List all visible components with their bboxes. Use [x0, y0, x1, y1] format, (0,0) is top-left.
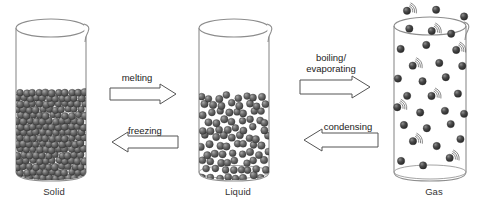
- transition-label-condensing: condensing: [308, 121, 388, 132]
- state-label-gas: Gas: [392, 186, 476, 197]
- particle: [459, 62, 466, 69]
- particle: [419, 162, 426, 169]
- particle: [409, 62, 416, 69]
- particle: [428, 92, 435, 99]
- particle: [29, 89, 36, 96]
- particle: [261, 127, 268, 134]
- particle: [446, 154, 453, 161]
- particle: [207, 128, 214, 135]
- particle: [447, 120, 454, 127]
- particle: [397, 157, 404, 164]
- particle: [51, 163, 59, 171]
- particle: [244, 160, 251, 167]
- particle: [236, 102, 243, 109]
- particle: [400, 121, 407, 128]
- transition-label-melting: melting: [104, 72, 170, 83]
- particle: [215, 126, 222, 133]
- particle: [428, 27, 435, 34]
- particle: [258, 93, 265, 100]
- particle: [409, 137, 416, 144]
- arrow-condensing: [304, 129, 378, 151]
- particle: [239, 110, 246, 117]
- particle: [61, 89, 68, 96]
- particle: [213, 133, 220, 140]
- particle: [265, 148, 272, 155]
- particle: [219, 151, 226, 158]
- particle: [238, 166, 245, 173]
- diagram-canvas: [0, 0, 486, 206]
- particle: [258, 142, 266, 150]
- particle: [228, 134, 235, 141]
- particle: [197, 143, 204, 150]
- particle: [423, 41, 430, 48]
- particle: [14, 152, 21, 159]
- particle: [441, 107, 448, 114]
- particle: [42, 112, 49, 119]
- particle: [419, 78, 426, 85]
- particle: [261, 119, 268, 126]
- particle: [252, 136, 259, 143]
- particle: [229, 150, 236, 157]
- particle: [240, 140, 247, 147]
- particle: [230, 166, 237, 173]
- particle: [222, 167, 229, 174]
- particle: [203, 165, 210, 172]
- particle: [204, 152, 211, 159]
- particle: [246, 148, 253, 155]
- particle: [457, 135, 464, 142]
- particle: [209, 101, 217, 109]
- particle: [208, 109, 215, 116]
- particle: [394, 75, 401, 82]
- particle: [205, 95, 212, 102]
- phase-change-diagram: melting freezing boiling/ evaporating co…: [0, 0, 486, 206]
- transition-label-freezing: freezing: [112, 125, 178, 136]
- particle: [81, 88, 89, 96]
- particle: [13, 117, 21, 125]
- particle: [433, 142, 440, 149]
- beaker-rim-liquid: [199, 19, 269, 37]
- particle: [432, 6, 439, 13]
- particle: [61, 113, 68, 120]
- particle: [249, 123, 256, 130]
- particle: [218, 102, 225, 109]
- particle: [48, 90, 56, 98]
- particle: [403, 92, 410, 99]
- particle: [397, 45, 404, 52]
- particle: [225, 174, 232, 181]
- particle: [224, 126, 231, 133]
- particle: [262, 101, 269, 108]
- particle: [26, 152, 33, 159]
- particle: [247, 116, 254, 123]
- state-label-solid: Solid: [12, 186, 96, 197]
- particle: [224, 159, 231, 166]
- particle: [221, 116, 228, 123]
- particle: [17, 89, 24, 96]
- particle: [61, 169, 68, 176]
- arrow-boiling-evaporating: [300, 76, 370, 98]
- particle: [212, 165, 219, 172]
- particle: [423, 125, 430, 132]
- particle: [17, 101, 24, 108]
- particle: [199, 127, 206, 134]
- particle: [406, 25, 413, 32]
- particle: [206, 140, 213, 147]
- particle: [253, 165, 260, 172]
- particle: [68, 112, 75, 119]
- transition-label-boiling-evaporating: boiling/ evaporating: [292, 52, 370, 74]
- arrow-melting: [110, 84, 176, 104]
- state-label-liquid: Liquid: [196, 186, 280, 197]
- particle: [453, 46, 460, 53]
- particle: [239, 117, 246, 124]
- particle: [436, 59, 443, 66]
- particle: [74, 158, 81, 165]
- particle: [216, 95, 223, 102]
- particle: [249, 94, 256, 101]
- particle: [223, 143, 230, 150]
- particle: [240, 127, 247, 134]
- particle: [211, 150, 219, 158]
- particle: [228, 118, 235, 125]
- particle: [223, 92, 230, 99]
- particle: [403, 7, 410, 14]
- particle: [460, 13, 467, 20]
- particle: [460, 110, 467, 117]
